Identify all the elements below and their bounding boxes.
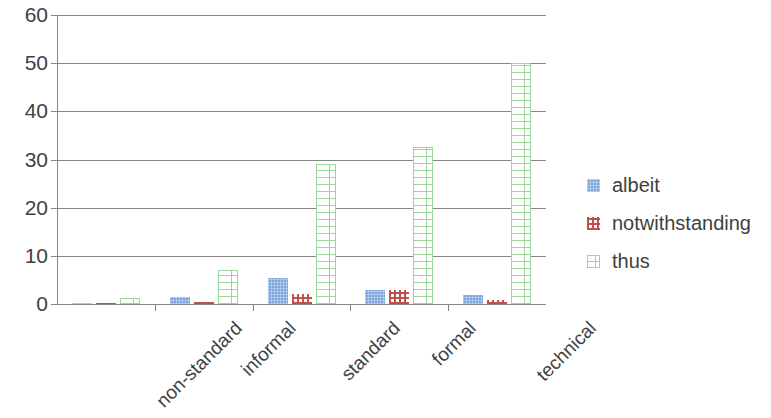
y-tick-label-20: 20 xyxy=(2,197,48,218)
y-tick-label-40: 40 xyxy=(2,100,48,121)
bar-standard-notwithstanding[interactable] xyxy=(292,294,312,304)
bar-group-standard xyxy=(268,15,336,304)
chart-legend: albeit notwithstanding thus xyxy=(587,166,771,280)
y-tick-0 xyxy=(51,304,57,305)
x-tick-informal xyxy=(155,304,156,311)
bar-technical-thus[interactable] xyxy=(511,63,531,304)
x-axis: non-standardinformalstandardformaltechni… xyxy=(0,304,560,418)
y-tick-30 xyxy=(51,160,57,161)
x-axis-label-technical: technical xyxy=(533,318,599,384)
legend-label-albeit: albeit xyxy=(612,175,660,195)
bar-informal-thus[interactable] xyxy=(218,270,238,304)
bar-group-technical xyxy=(463,15,531,304)
y-tick-60 xyxy=(51,15,57,16)
bar-group-informal xyxy=(170,15,238,304)
y-axis: 0102030405060 xyxy=(0,0,48,330)
plot-area xyxy=(57,15,546,304)
y-tick-40 xyxy=(51,111,57,112)
legend-swatch-icon-notwithstanding xyxy=(587,217,600,230)
bar-technical-albeit[interactable] xyxy=(463,295,483,304)
bar-informal-albeit[interactable] xyxy=(170,297,190,304)
bar-formal-thus[interactable] xyxy=(413,147,433,304)
x-axis-label-non-standard: non-standard xyxy=(153,318,246,411)
y-tick-label-50: 50 xyxy=(2,52,48,73)
legend-label-thus: thus xyxy=(612,251,650,271)
legend-item-thus[interactable]: thus xyxy=(587,242,771,280)
y-tick-20 xyxy=(51,208,57,209)
bar-group-non-standard xyxy=(72,15,140,304)
y-tick-50 xyxy=(51,63,57,64)
y-tick-label-30: 30 xyxy=(2,149,48,170)
x-tick-technical xyxy=(448,304,449,311)
bar-formal-albeit[interactable] xyxy=(365,290,385,304)
x-tick-standard xyxy=(253,304,254,311)
y-tick-label-60: 60 xyxy=(2,4,48,25)
bar-standard-thus[interactable] xyxy=(316,164,336,304)
legend-swatch-icon-albeit xyxy=(587,179,600,192)
x-axis-label-informal: informal xyxy=(237,318,298,379)
x-axis-label-formal: formal xyxy=(429,318,480,369)
y-tick-10 xyxy=(51,256,57,257)
y-tick-label-10: 10 xyxy=(2,245,48,266)
x-tick-formal xyxy=(350,304,351,311)
x-axis-label-standard: standard xyxy=(337,318,403,384)
legend-swatch-icon-thus xyxy=(587,255,600,268)
bar-standard-albeit[interactable] xyxy=(268,278,288,304)
legend-item-notwithstanding[interactable]: notwithstanding xyxy=(587,204,771,242)
bar-group-formal xyxy=(365,15,433,304)
bar-formal-notwithstanding[interactable] xyxy=(389,290,409,304)
legend-item-albeit[interactable]: albeit xyxy=(587,166,771,204)
bar-chart: 0102030405060 non-standardinformalstanda… xyxy=(0,0,771,418)
legend-label-notwithstanding: notwithstanding xyxy=(612,213,751,233)
